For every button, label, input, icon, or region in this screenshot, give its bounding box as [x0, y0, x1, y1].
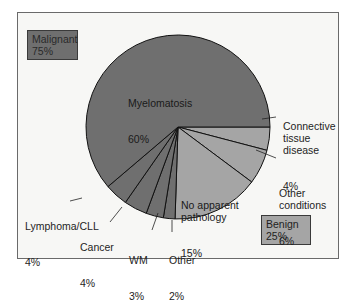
label-wm-text: WM [129, 254, 148, 266]
label-myelomatosis-pct: 60% [128, 133, 192, 145]
label-other-conditions-pct: 6% [279, 235, 326, 247]
label-other-conditions: Other conditions 6% [279, 163, 326, 259]
label-connective-text: Connective tissue disease [283, 120, 336, 156]
label-other: Other 2% [169, 230, 195, 304]
label-cancer: Cancer 4% [80, 217, 114, 301]
label-wm: WM 3% [129, 230, 148, 304]
label-other-conditions-text: Other conditions [279, 187, 326, 211]
legend-malignant-name: Malignant [32, 33, 73, 45]
legend-malignant-pct: 75% [32, 45, 73, 57]
label-wm-pct: 3% [129, 290, 148, 302]
label-myelomatosis: Myelomatosis 60% [128, 73, 192, 157]
label-myelomatosis-text: Myelomatosis [128, 97, 192, 109]
label-cancer-pct: 4% [80, 277, 114, 289]
legend-malignant: Malignant 75% [27, 30, 78, 60]
label-cancer-text: Cancer [80, 241, 114, 253]
label-no-pathology-text: No apparent pathology [181, 199, 239, 223]
label-other-text: Other [169, 254, 195, 266]
label-other-pct: 2% [169, 290, 195, 302]
